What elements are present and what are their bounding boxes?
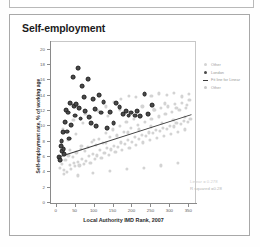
- data-point: [116, 145, 119, 148]
- data-point: [76, 66, 81, 71]
- y-tick: [47, 110, 50, 111]
- data-point: [136, 123, 139, 126]
- data-point: [171, 110, 174, 113]
- data-point: [91, 96, 96, 101]
- y-tick: [47, 156, 50, 157]
- fit-annotation: Linear = 0.278 R squared =0.28: [190, 178, 250, 192]
- legend-item: Fit line for Linear: [200, 77, 260, 83]
- data-point: [117, 105, 122, 110]
- fit-annotation-line1: Linear = 0.278: [190, 178, 250, 185]
- x-tick-label: 200: [128, 208, 135, 213]
- data-point: [160, 106, 163, 109]
- x-tick-label: 300: [166, 208, 173, 213]
- data-point: [67, 136, 72, 141]
- x-tick: [113, 204, 114, 207]
- data-point: [94, 124, 99, 129]
- data-point: [104, 105, 107, 108]
- data-point: [71, 155, 74, 158]
- legend-label: Other: [211, 85, 221, 90]
- x-tick-label: 50: [72, 208, 77, 213]
- data-point: [158, 129, 161, 132]
- data-point: [82, 122, 85, 125]
- data-point: [60, 162, 63, 165]
- data-point: [104, 132, 107, 135]
- data-point: [142, 92, 147, 97]
- legend-label: London: [211, 70, 224, 75]
- data-point: [114, 150, 117, 153]
- x-tick-label: 100: [90, 208, 97, 213]
- data-point: [172, 125, 175, 128]
- data-point: [65, 129, 70, 134]
- data-point: [129, 126, 132, 129]
- data-point: [167, 105, 170, 108]
- data-point: [85, 76, 90, 81]
- x-tick: [56, 204, 57, 207]
- data-point: [135, 143, 138, 146]
- chart-card: Self-employment 050100150200250300350024…: [9, 14, 250, 236]
- data-point: [181, 101, 184, 104]
- data-point: [143, 120, 146, 123]
- y-tick: [47, 171, 50, 172]
- data-point: [74, 132, 77, 135]
- x-tick: [131, 204, 132, 207]
- data-point: [85, 159, 88, 162]
- data-point: [71, 75, 76, 80]
- chart-legend: Other London Fit line for Linear Other: [200, 62, 260, 92]
- data-point: [149, 139, 152, 142]
- data-point: [150, 94, 153, 97]
- y-axis-label: Self-employment rate, % of working age: [35, 56, 41, 196]
- data-point: [64, 158, 67, 161]
- data-point: [147, 131, 150, 134]
- x-axis-line: [50, 203, 197, 204]
- y-tick: [47, 187, 50, 188]
- data-point: [100, 156, 103, 159]
- data-point: [146, 112, 151, 117]
- data-point: [83, 149, 86, 152]
- data-point: [101, 99, 106, 104]
- data-point: [161, 126, 164, 129]
- data-point: [128, 146, 131, 149]
- data-point: [150, 102, 155, 107]
- y-axis-line: [50, 41, 51, 204]
- data-point: [140, 133, 143, 136]
- y-tick: [47, 49, 50, 50]
- y-tick-label: 20: [40, 46, 45, 51]
- legend-label: Other: [211, 62, 221, 67]
- data-point: [165, 127, 168, 130]
- data-point: [168, 124, 171, 127]
- data-point: [76, 160, 79, 163]
- x-tick: [150, 204, 151, 207]
- data-point: [82, 95, 87, 100]
- data-point: [104, 125, 109, 130]
- data-point: [125, 168, 128, 171]
- legend-line-icon: [203, 80, 208, 81]
- data-point: [80, 157, 83, 160]
- x-tick-label: 0: [54, 208, 56, 213]
- data-point: [185, 106, 188, 109]
- data-point: [63, 119, 68, 124]
- data-point: [176, 162, 179, 165]
- data-point: [188, 99, 191, 102]
- data-point: [178, 109, 181, 112]
- data-point: [122, 130, 125, 133]
- data-point: [69, 167, 72, 170]
- data-point: [89, 121, 94, 126]
- legend-label: Fit line for Linear: [211, 77, 240, 82]
- data-point: [141, 105, 144, 108]
- data-point: [186, 120, 189, 123]
- data-point: [110, 148, 113, 151]
- data-point: [189, 117, 192, 120]
- document-page: Self-employment 050100150200250300350024…: [0, 0, 260, 247]
- data-point: [78, 164, 81, 167]
- data-point: [154, 129, 157, 132]
- legend-dot-icon: [204, 63, 207, 66]
- data-point: [162, 134, 165, 137]
- data-point: [124, 142, 127, 145]
- x-tick-label: 350: [185, 208, 192, 213]
- data-point: [173, 91, 176, 94]
- y-tick-label: 6: [43, 154, 45, 159]
- data-point: [176, 130, 179, 133]
- data-point: [87, 155, 90, 158]
- y-tick: [47, 64, 50, 65]
- data-point: [108, 135, 111, 138]
